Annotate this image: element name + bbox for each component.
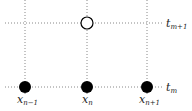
stencil-diagram: tm+1 tm xn−1 xn xn+1 bbox=[0, 0, 192, 111]
node-filled-n+1 bbox=[141, 81, 153, 93]
label-x-n+1: xn+1 bbox=[139, 93, 160, 107]
label-x-n: xn bbox=[82, 93, 93, 107]
node-filled-n-1 bbox=[19, 81, 31, 93]
label-t-m: tm bbox=[166, 81, 177, 95]
node-open-n-m+1 bbox=[81, 17, 93, 29]
label-x-n-1: xn−1 bbox=[17, 93, 38, 107]
node-filled-n bbox=[81, 81, 93, 93]
label-t-m+1: tm+1 bbox=[166, 17, 187, 31]
